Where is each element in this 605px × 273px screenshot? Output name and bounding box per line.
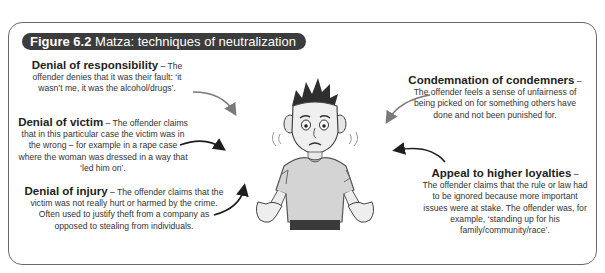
dash: – (571, 169, 578, 179)
technique-heading: Appeal to higher loyalties (431, 167, 571, 179)
technique-heading: Denial of victim (18, 116, 103, 128)
technique-heading: Denial of injury (25, 185, 108, 197)
dash: – (108, 187, 117, 197)
technique-heading: Denial of responsibility (32, 59, 159, 71)
technique-heading: Condemnation of condemners (408, 74, 574, 86)
technique-body: The offender feels a sense of unfairness… (414, 87, 577, 119)
technique-condemnation-of-condemners: Condemnation of condemners – The offende… (405, 75, 585, 121)
figure-title-badge: Figure 6.2 Matza: techniques of neutrali… (22, 33, 306, 50)
technique-denial-of-victim: Denial of victim – The offender claims t… (18, 117, 188, 174)
figure-number: Figure 6.2 (30, 34, 91, 49)
shrugging-man-illustration (240, 62, 390, 232)
dash: – (103, 118, 112, 128)
dash: – (574, 76, 581, 86)
figure-title: Matza: techniques of neutralization (95, 34, 296, 49)
technique-denial-of-injury: Denial of injury – The offender claims t… (24, 186, 224, 232)
technique-denial-of-responsibility: Denial of responsibility – The offender … (22, 60, 192, 95)
technique-body: The offender claims that the rule or law… (422, 180, 587, 235)
technique-appeal-to-higher-loyalties: Appeal to higher loyalties – The offende… (420, 168, 590, 236)
dash: – (158, 61, 167, 71)
